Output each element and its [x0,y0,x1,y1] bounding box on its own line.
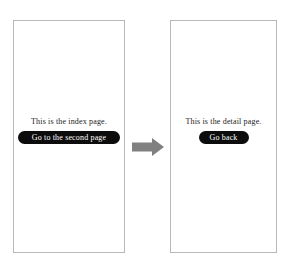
detail-page-label: This is the detail page. [185,116,261,127]
index-page-label: This is the index page. [31,116,107,127]
index-content: This is the index page. Go to the second… [14,116,124,144]
phone-frame-index: This is the index page. Go to the second… [13,20,125,253]
go-back-button[interactable]: Go back [199,131,249,144]
phone-frame-detail: This is the detail page. Go back [170,20,277,253]
navigation-flow-diagram: This is the index page. Go to the second… [0,0,290,267]
screen-index: This is the index page. Go to the second… [14,21,124,252]
screen-detail: This is the detail page. Go back [171,21,276,252]
go-to-second-page-button[interactable]: Go to the second page [18,131,120,144]
detail-content: This is the detail page. Go back [171,116,276,144]
arrow-right-icon [132,138,164,156]
